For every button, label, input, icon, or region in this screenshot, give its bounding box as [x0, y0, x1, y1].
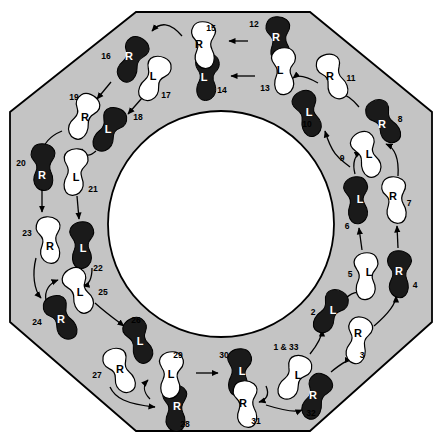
step-number-4: 4 [413, 280, 418, 290]
step-number-133: 1 & 33 [273, 342, 298, 352]
step-number-23: 23 [22, 228, 32, 238]
step-number-28: 28 [180, 419, 190, 429]
step-number-29: 29 [173, 350, 183, 360]
inner-circle [108, 111, 334, 337]
step-number-7: 7 [407, 198, 412, 208]
step-number-3: 3 [360, 350, 365, 360]
step-number-27: 27 [92, 370, 102, 380]
step-number-19: 19 [69, 92, 79, 102]
step-number-17: 17 [161, 90, 171, 100]
step-number-32: 32 [306, 408, 316, 418]
step-number-22: 22 [93, 263, 103, 273]
octagon-floor-svg: LLRRLLRRLLRRLLRRLLRRLLRRLLRRLLRR 1 & 332… [0, 0, 441, 448]
step-number-16: 16 [101, 51, 111, 61]
step-number-30: 30 [219, 350, 229, 360]
step-number-10: 10 [302, 119, 312, 129]
step-number-6: 6 [345, 221, 350, 231]
step-number-11: 11 [347, 73, 356, 83]
step-number-18: 18 [133, 112, 143, 122]
step-pattern-diagram: LLRRLLRRLLRRLLRRLLRRLLRRLLRRLLRR 1 & 332… [0, 0, 441, 448]
step-number-15: 15 [206, 23, 216, 33]
step-number-9: 9 [340, 153, 345, 163]
step-number-14: 14 [217, 85, 227, 95]
step-number-5: 5 [348, 269, 353, 279]
step-number-24: 24 [32, 317, 42, 327]
step-number-20: 20 [16, 158, 26, 168]
step-number-13: 13 [260, 83, 270, 93]
step-number-2: 2 [311, 307, 316, 317]
step-number-12: 12 [249, 19, 259, 29]
step-number-8: 8 [398, 114, 403, 124]
step-number-25: 25 [98, 287, 108, 297]
step-number-21: 21 [88, 184, 98, 194]
step-number-31: 31 [251, 416, 261, 426]
step-number-26: 26 [131, 315, 141, 325]
